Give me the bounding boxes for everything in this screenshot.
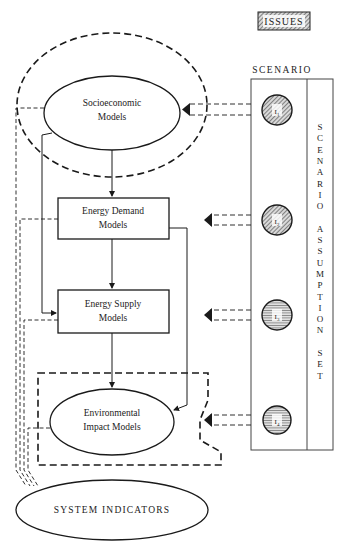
model-flow-diagram: ISSUES Socioeconomic Models Energy Deman… xyxy=(0,0,344,550)
vertical-letter: I xyxy=(319,190,322,200)
vertical-letter: M xyxy=(316,269,324,279)
socioeconomic-label-line2: Models xyxy=(98,112,127,122)
vertical-letter: T xyxy=(317,292,323,302)
issue-i1[interactable]: I1 xyxy=(262,95,292,125)
vertical-letter: T xyxy=(317,371,323,381)
vertical-letter: O xyxy=(317,201,324,211)
vertical-letter: A xyxy=(317,167,324,177)
vertical-letter: U xyxy=(317,258,324,268)
socioeconomic-label-line1: Socioeconomic xyxy=(83,98,142,108)
vertical-letter: S xyxy=(317,235,322,245)
system-indicators-node[interactable]: SYSTEM INDICATORS xyxy=(16,480,208,540)
environmental-label-line2: Impact Models xyxy=(83,422,141,432)
vertical-letter: O xyxy=(317,314,324,324)
vertical-letter: S xyxy=(317,246,322,256)
issues-legend-label: ISSUES xyxy=(264,16,303,27)
scenario-title: SCENARIO xyxy=(252,65,312,75)
energy-demand-models-node[interactable]: Energy Demand Models xyxy=(58,198,169,239)
issue-i4[interactable]: I4 xyxy=(263,406,291,434)
vertical-letter: C xyxy=(317,133,323,143)
energy-supply-label-line1: Energy Supply xyxy=(85,299,142,309)
vertical-letter: N xyxy=(317,156,324,166)
vertical-letter: E xyxy=(317,145,323,155)
system-indicators-label: SYSTEM INDICATORS xyxy=(54,505,171,515)
environmental-label-line1: Environmental xyxy=(84,408,141,418)
scenario-input-connectors xyxy=(188,104,251,425)
vertical-letter: E xyxy=(317,359,323,369)
energy-supply-models-node[interactable]: Energy Supply Models xyxy=(58,290,169,333)
socioeconomic-models-node[interactable]: Socioeconomic Models xyxy=(44,76,180,150)
issues-legend: ISSUES xyxy=(258,12,310,30)
energy-demand-label-line2: Models xyxy=(99,220,128,230)
issue-i3[interactable]: I3 xyxy=(262,300,292,330)
issue-i2[interactable]: I2 xyxy=(262,205,292,235)
vertical-letter: P xyxy=(317,280,322,290)
vertical-letter: A xyxy=(317,224,324,234)
vertical-letter: N xyxy=(317,325,324,335)
solid-flow-connectors xyxy=(42,133,187,410)
vertical-letter: R xyxy=(317,179,323,189)
energy-demand-label-line1: Energy Demand xyxy=(82,206,144,216)
energy-supply-label-line2: Models xyxy=(99,313,128,323)
vertical-letter: S xyxy=(317,122,322,132)
vertical-letter: I xyxy=(319,303,322,313)
vertical-letter: S xyxy=(317,348,322,358)
environmental-impact-models-node[interactable]: Environmental Impact Models xyxy=(50,389,174,455)
